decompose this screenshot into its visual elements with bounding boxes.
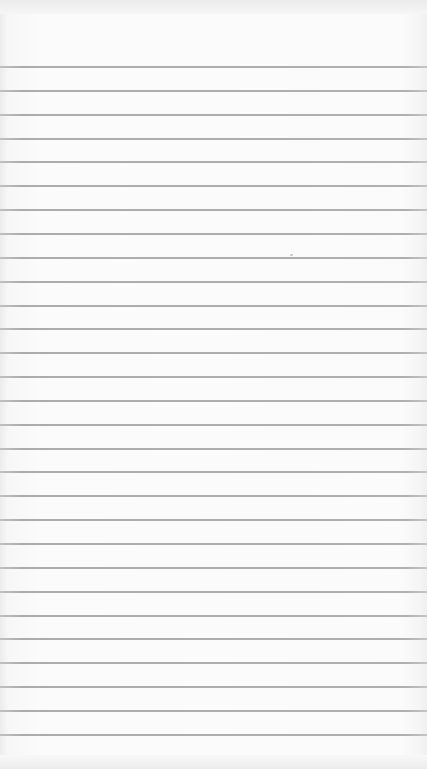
ruled-line [0, 710, 427, 712]
ruled-line [0, 638, 427, 640]
paper-top-edge [0, 0, 427, 14]
ruled-paper [0, 0, 427, 769]
ruled-line [0, 448, 427, 450]
ruled-line [0, 471, 427, 473]
ruled-line [0, 257, 427, 259]
ruled-line [0, 424, 427, 426]
ruled-line [0, 615, 427, 617]
ruled-line [0, 734, 427, 736]
paper-speck [290, 254, 293, 256]
ruled-line [0, 138, 427, 140]
ruled-line [0, 209, 427, 211]
ruled-line [0, 543, 427, 545]
ruled-line [0, 352, 427, 354]
ruled-line [0, 114, 427, 116]
paper-bottom-edge [0, 755, 427, 769]
ruled-line [0, 185, 427, 187]
ruled-line [0, 376, 427, 378]
ruled-line [0, 662, 427, 664]
ruled-line [0, 686, 427, 688]
ruled-line [0, 66, 427, 68]
ruled-line [0, 519, 427, 521]
ruled-line [0, 233, 427, 235]
ruled-line [0, 567, 427, 569]
ruled-line [0, 305, 427, 307]
ruled-line [0, 400, 427, 402]
ruled-line [0, 281, 427, 283]
ruled-line [0, 328, 427, 330]
ruled-line [0, 591, 427, 593]
ruled-line [0, 161, 427, 163]
ruled-line [0, 495, 427, 497]
ruled-line [0, 90, 427, 92]
